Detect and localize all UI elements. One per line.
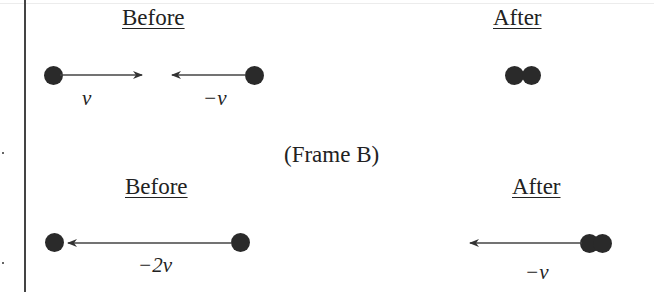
velocity-arrows [0, 0, 654, 292]
